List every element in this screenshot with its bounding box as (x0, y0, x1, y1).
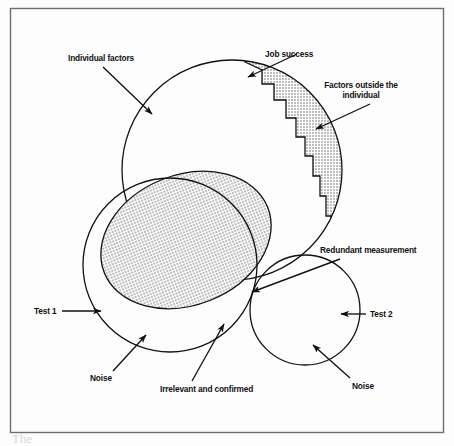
label-irrelevant-and-confirmed: Irrelevant and confirmed (160, 384, 253, 394)
caption-strip: The (0, 434, 454, 446)
label-factors-outside-line2: individual (342, 90, 379, 100)
label-factors-outside-line1: Factors outside the (324, 80, 398, 90)
label-noise-right: Noise (352, 381, 374, 391)
label-individual-factors: Individual factors (68, 53, 135, 63)
label-test-2: Test 2 (370, 309, 393, 319)
figure-container: Individual factors Job success Factors o… (0, 0, 454, 446)
label-test-1: Test 1 (34, 306, 57, 316)
label-redundant-measurement: Redundant measurement (320, 245, 417, 255)
label-noise-left: Noise (90, 373, 112, 383)
venn-diagram-svg: Individual factors Job success Factors o… (0, 0, 454, 446)
caption-partial-text: The (12, 434, 32, 446)
label-job-success: Job success (265, 49, 314, 59)
